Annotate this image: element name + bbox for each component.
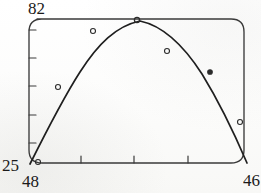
scatter-plot-canvas	[0, 0, 261, 193]
parabola-fit-line	[30, 21, 247, 164]
data-point	[91, 29, 96, 34]
x-axis-ticks	[81, 156, 188, 163]
y-axis-max-label: 82	[28, 0, 45, 17]
data-point	[56, 85, 61, 90]
y-axis-min-label: 25	[2, 157, 19, 174]
x-axis-max-label: 46	[243, 172, 261, 189]
y-axis-ticks	[29, 30, 36, 143]
fit-curve	[30, 21, 247, 164]
data-point	[208, 70, 213, 75]
figure-screenshot: 82 25 48 46	[0, 0, 261, 193]
data-point	[165, 49, 170, 54]
data-point	[238, 120, 243, 125]
x-axis-min-label: 48	[22, 173, 39, 190]
